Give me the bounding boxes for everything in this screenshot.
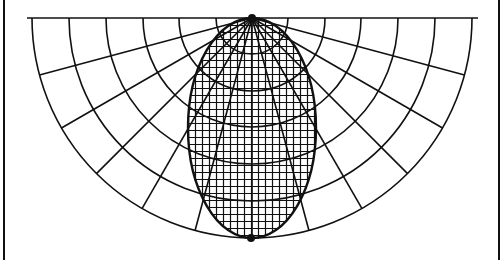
top-pole-point xyxy=(248,14,256,22)
bottom-pole-point xyxy=(247,234,255,242)
diagram-canvas: Polar grid with elliptical fine grid xyxy=(0,0,504,260)
polar-radial-line xyxy=(252,18,443,128)
polar-ellipse-diagram xyxy=(0,0,504,260)
polar-grid xyxy=(32,18,472,238)
